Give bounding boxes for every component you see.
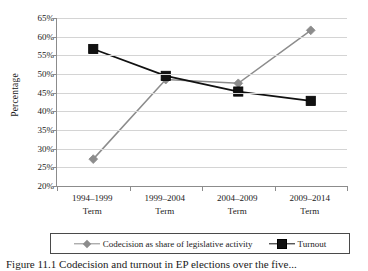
gridline (57, 37, 347, 38)
y-axis-tick-mark (53, 18, 57, 19)
x-axis-tick-mark (130, 186, 131, 191)
x-axis-label-term: Term (274, 205, 347, 218)
x-axis-tick-label: 1999–2004Term (129, 192, 202, 226)
x-axis-label-years: 2004–2009 (201, 192, 274, 205)
plot-area (56, 18, 347, 187)
x-axis-tick-mark (57, 186, 58, 191)
legend-key (269, 238, 295, 250)
gridline (57, 93, 347, 94)
gridline (57, 167, 347, 168)
diamond-marker (83, 239, 91, 247)
x-axis-label-years: 1994–1999 (56, 192, 129, 205)
gridline (57, 130, 347, 131)
x-axis-label-years: 1999–2004 (129, 192, 202, 205)
legend-entry[interactable]: Turnout (269, 238, 327, 250)
gridline (57, 149, 347, 150)
y-axis-tick-label: 50% (26, 70, 54, 79)
square-marker (89, 44, 98, 53)
legend-label: Codecision as share of legislative activ… (103, 239, 253, 249)
figure-chart: Percentage 65%60%55%50%45%40%35%30%25%20… (0, 0, 368, 271)
y-axis-tick-label: 60% (26, 32, 54, 41)
y-axis-tick-mark (53, 130, 57, 131)
x-axis-tick-label: 2004–2009Term (201, 192, 274, 226)
x-axis-tick-labels: 1994–1999Term1999–2004Term2004–2009Term2… (56, 192, 346, 226)
x-axis-tick-mark (347, 186, 348, 191)
y-axis-tick-mark (53, 74, 57, 75)
x-axis-tick-label: 1994–1999Term (56, 192, 129, 226)
square-marker (234, 87, 243, 96)
y-axis-tick-label: 65% (26, 14, 54, 23)
x-axis-tick-label: 2009–2014Term (274, 192, 347, 226)
y-axis-tick-mark (53, 149, 57, 150)
y-axis-tick-mark (53, 55, 57, 56)
x-axis-label-term: Term (201, 205, 274, 218)
gridline (57, 111, 347, 112)
series-line (93, 30, 311, 159)
figure-caption: Figure 11.1 Codecision and turnout in EP… (6, 258, 364, 271)
square-marker (277, 239, 287, 249)
square-marker (161, 71, 170, 80)
gridline (57, 55, 347, 56)
y-axis-tick-label: 55% (26, 51, 54, 60)
x-axis-label-years: 2009–2014 (274, 192, 347, 205)
x-axis-label-term: Term (56, 205, 129, 218)
x-axis-label-term: Term (129, 205, 202, 218)
square-marker (306, 96, 315, 105)
legend-entry[interactable]: Codecision as share of legislative activ… (74, 238, 253, 250)
x-axis-tick-mark (275, 186, 276, 191)
x-axis-tick-mark (202, 186, 203, 191)
series-layer (57, 18, 347, 186)
y-axis-tick-labels: 65%60%55%50%45%40%35%30%25%20% (22, 0, 54, 200)
y-axis-tick-label: 40% (26, 107, 54, 116)
legend-label: Turnout (298, 239, 327, 249)
gridline (57, 18, 347, 19)
gridline (57, 74, 347, 75)
chart-legend: Codecision as share of legislative activ… (50, 233, 350, 254)
y-axis-tick-label: 35% (26, 126, 54, 135)
y-axis-tick-mark (53, 111, 57, 112)
y-axis-tick-label: 30% (26, 144, 54, 153)
y-axis-tick-mark (53, 37, 57, 38)
y-axis-tick-label: 25% (26, 163, 54, 172)
y-axis-title-label: Percentage (10, 73, 20, 117)
y-axis-tick-label: 20% (26, 182, 54, 191)
y-axis-tick-label: 45% (26, 88, 54, 97)
y-axis-tick-mark (53, 167, 57, 168)
y-axis-tick-mark (53, 93, 57, 94)
legend-key (74, 238, 100, 250)
